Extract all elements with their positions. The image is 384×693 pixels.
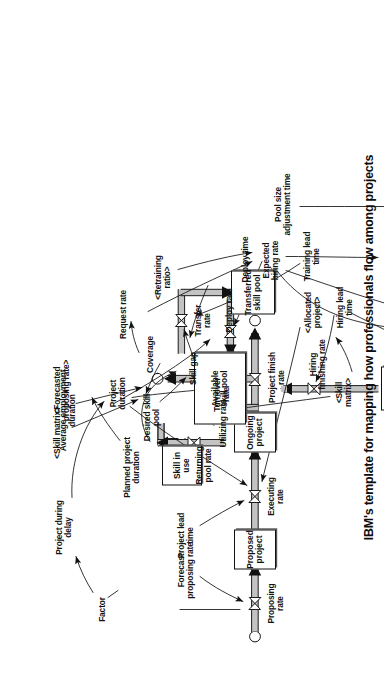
variable-label-coverage: Coverage — [146, 336, 155, 373]
variable-label-allocated-project: <Allocated project> — [304, 291, 323, 332]
flow-label-project-finish-rate: Project finish rate — [268, 352, 287, 403]
variable-label-training-lead-time: Training lead time — [303, 231, 322, 281]
variable-label-deploy-time: Deploy time — [241, 236, 250, 282]
variable-label-skill-matrix-1: <Skill matrix> — [335, 378, 354, 407]
stock-label: Proposed project — [246, 530, 265, 569]
variable-label-hiring-lead-time: Hiring lead time — [336, 286, 355, 328]
variable-label-pool-size-adjustment-time: Pool size adjustment time — [274, 173, 293, 235]
flow-label-executing-rate: Executing rate — [267, 477, 286, 516]
variable-label-forecast-proposing-rate: Forecast proposing rate — [177, 542, 196, 599]
variable-label-project-duration: Project duration — [109, 377, 128, 409]
flow-label-deploy-rate: Deploy rate — [225, 288, 234, 332]
flow-label-proposing-rate: Proposing rate — [267, 583, 286, 623]
stock-label: Ongoing project — [246, 415, 265, 449]
flow-label-hiring-finishing-rate: Hiring finishing rate — [309, 339, 328, 389]
variable-label-factor: Factor — [98, 597, 107, 622]
diagram-canvas: Proposed project Ongoing project Skill i… — [0, 0, 384, 693]
page-title: IBM's template for mapping how professio… — [362, 154, 376, 539]
flow-label-transfer-rate: Transfer rate — [194, 304, 213, 336]
flow-label-turnover-rate: Turnover rate — [213, 377, 232, 411]
variable-label-expected-hiring-rate: Expected hiring rate — [262, 240, 281, 279]
variable-label-project-during-delay: Project during delay — [55, 500, 74, 555]
variable-label-skill-gap: Skill gap — [189, 351, 198, 384]
stock-proposed-project: Proposed project — [234, 529, 276, 569]
variable-label-retraining-ratio: <Retraining ratio> — [154, 255, 173, 300]
variable-label-forecasted-proposing-rate: <Forecasted proposing rate> — [53, 359, 72, 420]
stock-label: Skill in use — [173, 452, 192, 479]
variable-label-desired-skill-pool: Desired skill pool — [143, 393, 162, 440]
flow-label-returning-pool-rate: Returning pool rate — [195, 446, 214, 484]
variable-label-planned-project-duration: Planned project duration — [123, 437, 142, 498]
variable-label-request-rate: Request rate — [119, 290, 128, 339]
